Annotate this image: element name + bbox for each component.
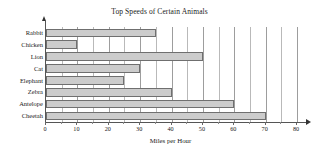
bar-zebra bbox=[46, 88, 172, 97]
x-tick-minor bbox=[92, 122, 93, 124]
x-tick-label: 30 bbox=[136, 125, 142, 133]
x-tick-label: 50 bbox=[199, 125, 205, 133]
x-tick-label: 60 bbox=[230, 125, 236, 133]
gridline-major bbox=[297, 27, 298, 122]
bar-row: Zebra bbox=[46, 86, 297, 98]
category-label: Cheetah bbox=[22, 111, 43, 120]
x-axis-label: Miles per Hour bbox=[45, 136, 296, 145]
plot-area: RabbitChickenLionCatElephantZebraAntelop… bbox=[45, 27, 297, 123]
category-label: Antelope bbox=[19, 99, 43, 108]
category-label: Zebra bbox=[28, 87, 43, 96]
bar-cat bbox=[46, 64, 140, 73]
category-label: Rabbit bbox=[26, 28, 43, 37]
x-tick-label: 70 bbox=[262, 125, 268, 133]
category-label: Chicken bbox=[21, 40, 43, 49]
x-tick-minor bbox=[155, 122, 156, 124]
bar-row: Cat bbox=[46, 63, 297, 75]
x-tick-label: 40 bbox=[167, 125, 173, 133]
x-tick-minor bbox=[61, 122, 62, 124]
bar-antelope bbox=[46, 100, 234, 109]
x-tick-label: 0 bbox=[43, 125, 46, 133]
bar-row: Lion bbox=[46, 51, 297, 63]
bar-chicken bbox=[46, 40, 77, 49]
bar-row: Chicken bbox=[46, 39, 297, 51]
category-label: Elephant bbox=[20, 76, 43, 85]
chart-title: Top Speeds of Certain Animals bbox=[0, 7, 319, 16]
x-tick-label: 20 bbox=[105, 125, 111, 133]
x-axis-arrow-icon bbox=[306, 119, 311, 125]
bar-lion bbox=[46, 52, 203, 61]
bar-elephant bbox=[46, 76, 124, 85]
category-label: Lion bbox=[31, 52, 43, 61]
category-label: Cat bbox=[34, 64, 43, 73]
bar-rabbit bbox=[46, 29, 156, 38]
x-tick-minor bbox=[186, 122, 187, 124]
x-tick-label: 80 bbox=[293, 125, 299, 133]
bar-row: Elephant bbox=[46, 75, 297, 87]
x-tick-minor bbox=[280, 122, 281, 124]
bar-cheetah bbox=[46, 112, 266, 121]
x-tick-minor bbox=[249, 122, 250, 124]
x-tick-minor bbox=[218, 122, 219, 124]
bar-chart: Top Speeds of Certain Animals RabbitChic… bbox=[0, 0, 319, 156]
bar-row: Rabbit bbox=[46, 27, 297, 39]
bar-row: Cheetah bbox=[46, 110, 297, 122]
x-tick-label: 10 bbox=[73, 125, 79, 133]
bar-row: Antelope bbox=[46, 98, 297, 110]
x-tick-minor bbox=[123, 122, 124, 124]
